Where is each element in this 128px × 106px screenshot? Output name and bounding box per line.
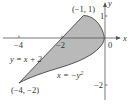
x-tick-label-neg4: −4 <box>14 40 24 50</box>
parabola-equation-base: x = −y <box>56 70 80 80</box>
parabola-equation-exponent: 2 <box>80 70 83 76</box>
y-axis-label: y <box>107 0 112 8</box>
y-tick-label-1: 1 <box>100 11 104 21</box>
x-axis-label: x <box>122 33 127 43</box>
region-diagram: x y 0 −4 −2 1 −2 (−1, 1) (−4, −2) y = x … <box>0 0 128 106</box>
parabola-equation-label: x = −y2 <box>56 70 83 80</box>
diagram-svg: x y 0 −4 −2 1 −2 (−1, 1) (−4, −2) y = x … <box>0 0 128 106</box>
x-tick-label-neg2: −2 <box>56 40 65 50</box>
origin-label: 0 <box>108 40 112 50</box>
point-label-top: (−1, 1) <box>72 4 95 14</box>
line-equation-label: y = x + 2 <box>9 54 43 64</box>
x-axis-arrow-icon <box>116 36 121 40</box>
point-label-bottom: (−4, −2) <box>11 85 39 95</box>
y-axis-arrow-icon <box>103 2 107 7</box>
y-tick-label-neg2: −2 <box>94 80 103 90</box>
